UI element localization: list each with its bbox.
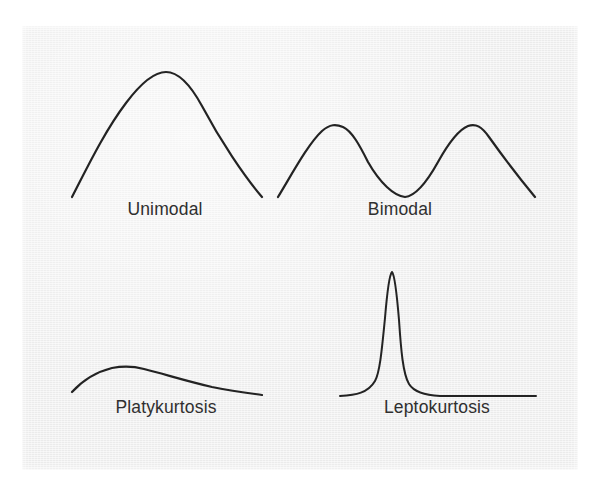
label-bimodal: Bimodal bbox=[368, 199, 432, 220]
curve-platykurtosis bbox=[72, 367, 262, 395]
curve-unimodal bbox=[72, 72, 262, 197]
label-unimodal: Unimodal bbox=[127, 199, 202, 220]
curve-bimodal bbox=[278, 125, 535, 197]
distribution-shapes-figure bbox=[0, 0, 602, 493]
label-platykurtosis: Platykurtosis bbox=[115, 397, 216, 418]
figure-page: Unimodal Bimodal Platykurtosis Leptokurt… bbox=[0, 0, 602, 493]
curve-leptokurtosis bbox=[340, 272, 536, 396]
label-leptokurtosis: Leptokurtosis bbox=[384, 397, 490, 418]
